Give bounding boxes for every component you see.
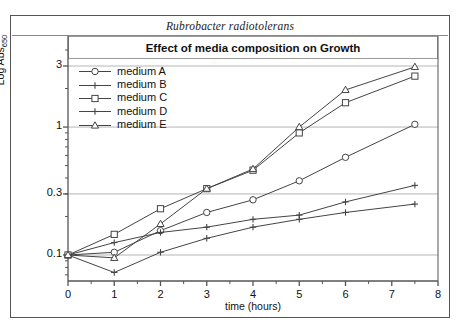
y-axis-label: Log Abs650: [0, 0, 9, 120]
legend-item-medium-D[interactable]: medium D: [78, 104, 167, 117]
y-tick-label-1: 1: [20, 119, 62, 131]
x-tick-label-2: 2: [151, 288, 171, 300]
x-tick-label-8: 8: [428, 288, 448, 300]
x-tick-label-7: 7: [382, 288, 402, 300]
x-tick-label-5: 5: [289, 288, 309, 300]
datapoint-medium-B-1: [111, 269, 117, 275]
legend-marker-triangle-icon: [78, 118, 112, 131]
datapoint-medium-D-6: [342, 199, 348, 205]
legend-item-medium-C[interactable]: medium C: [78, 91, 167, 104]
x-tick-label-3: 3: [197, 288, 217, 300]
x-tick-label-0: 0: [58, 288, 78, 300]
datapoint-medium-A-3: [204, 209, 210, 215]
datapoint-medium-B-6: [342, 209, 348, 215]
datapoint-medium-E-2: [157, 220, 164, 226]
legend-label: medium A: [117, 65, 166, 77]
legend: medium Amedium Bmedium Cmedium Dmedium E: [78, 64, 167, 131]
legend-marker-plus-icon: [78, 104, 112, 117]
legend-label: medium D: [117, 105, 167, 117]
legend-item-medium-A[interactable]: medium A: [78, 64, 167, 77]
legend-label: medium C: [117, 91, 167, 103]
datapoint-medium-C-2: [157, 206, 163, 212]
datapoint-medium-C-5: [296, 130, 302, 136]
series-line-medium-D: [68, 185, 415, 255]
datapoint-medium-D-1: [111, 239, 117, 245]
datapoint-medium-A-6: [342, 154, 348, 160]
legend-marker-circle-icon: [78, 64, 112, 77]
datapoint-medium-A-4: [250, 197, 256, 203]
x-tick-label-4: 4: [243, 288, 263, 300]
x-tick-label-6: 6: [336, 288, 356, 300]
legend-item-medium-E[interactable]: medium E: [78, 118, 167, 131]
datapoint-medium-D-4: [250, 216, 256, 222]
datapoint-medium-B-4: [250, 224, 256, 230]
datapoint-medium-D-7: [412, 182, 418, 188]
series-line-medium-B: [68, 204, 415, 272]
legend-label: medium E: [117, 118, 167, 130]
legend-label: medium B: [117, 78, 167, 90]
datapoint-medium-C-1: [111, 231, 117, 237]
datapoint-medium-A-5: [296, 178, 302, 184]
datapoint-medium-E-5: [296, 123, 303, 129]
x-tick-label-1: 1: [104, 288, 124, 300]
legend-marker-square-icon: [78, 91, 112, 104]
y-axis-label-text: Log Abs: [0, 47, 6, 85]
series-line-medium-A: [68, 124, 415, 255]
datapoint-medium-B-7: [412, 201, 418, 207]
legend-marker-plus-icon: [78, 78, 112, 91]
figure-root: Rubrobacter radiotolerans Effect of medi…: [0, 0, 461, 335]
datapoint-medium-C-7: [412, 73, 418, 79]
y-axis-label-subscript: 650: [0, 35, 9, 48]
datapoint-medium-C-6: [342, 100, 348, 106]
x-axis-label: time (hours): [68, 300, 438, 312]
y-tick-label-3: 3: [20, 58, 62, 70]
datapoint-medium-A-7: [412, 121, 418, 127]
datapoint-medium-D-5: [296, 212, 302, 218]
datapoint-medium-D-3: [204, 224, 210, 230]
legend-item-medium-B[interactable]: medium B: [78, 77, 167, 90]
y-tick-label-0.1: 0.1: [20, 247, 62, 259]
datapoint-medium-B-3: [204, 235, 210, 241]
chart-canvas: [0, 0, 461, 335]
y-tick-label-0.3: 0.3: [20, 186, 62, 198]
